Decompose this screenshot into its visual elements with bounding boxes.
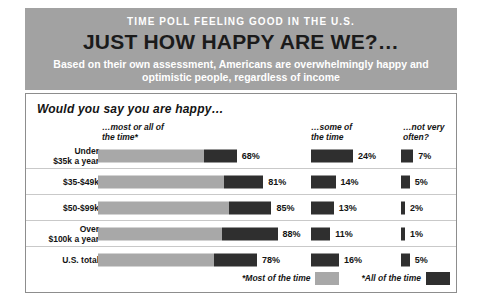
bar-value-label: 1% [410, 229, 423, 239]
bar-group-not-very-often: 5% [401, 253, 410, 266]
bar-segment [311, 175, 336, 188]
bar-value-label: 68% [242, 151, 260, 161]
bar-segment-most-of-the-time [98, 227, 222, 240]
bar-group-most-or-all: 88% [98, 227, 278, 240]
bar-value-label: 81% [268, 177, 286, 187]
bar-segment [311, 201, 334, 214]
legend-label-most: *Most of the time [242, 273, 310, 283]
bar-group-some-of-the-time: 13% [311, 201, 334, 214]
bar-segment [401, 201, 405, 214]
subheadline: Based on their own assessment, Americans… [25, 58, 457, 84]
row-label: $35-$49k [63, 177, 99, 187]
bar-segment [311, 149, 353, 162]
bar-value-label: 14% [341, 177, 359, 187]
bar-segment-all-of-the-time [214, 253, 257, 266]
bar-segment-most-of-the-time [98, 201, 229, 214]
bar-segment [401, 149, 413, 162]
row-label: $50-$99k [63, 203, 99, 213]
bar-group-some-of-the-time: 14% [311, 175, 336, 188]
column-header-not-very-often: …not very often? [403, 122, 445, 142]
bar-value-label: 78% [262, 255, 280, 265]
bar-segment [401, 227, 405, 240]
legend: *Most of the time *All of the time [26, 271, 450, 285]
bar-value-label: 16% [344, 255, 362, 265]
chart-row: $35-$49k81%14%5% [26, 168, 456, 194]
bar-group-most-or-all: 68% [98, 149, 237, 162]
chart-row: U.S. total78%16%5% [26, 246, 456, 272]
bar-value-label: 11% [335, 229, 353, 239]
row-label: Over $100k a year [48, 224, 99, 244]
bar-segment-all-of-the-time [229, 201, 272, 214]
headline: JUST HOW HAPPY ARE WE?… [25, 30, 457, 54]
infographic-root: TIME POLL FEELING GOOD IN THE U.S. JUST … [0, 0, 481, 305]
bar-value-label: 24% [358, 151, 376, 161]
bar-value-label: 13% [339, 203, 357, 213]
bar-group-most-or-all: 85% [98, 201, 271, 214]
column-header-most-or-all: …most or all of the time* [102, 122, 164, 142]
chart-row: Over $100k a year88%11%1% [26, 220, 456, 246]
chart-panel: Would you say you are happy… …most or al… [25, 93, 457, 293]
bar-group-some-of-the-time: 16% [311, 253, 339, 266]
bar-value-label: 85% [276, 203, 294, 213]
bar-value-label: 2% [410, 203, 423, 213]
chart-row: Under $35k a year68%24%7% [26, 143, 456, 168]
bar-segment-all-of-the-time [204, 149, 237, 162]
bar-group-most-or-all: 78% [98, 253, 257, 266]
bar-segment [311, 253, 339, 266]
legend-swatch-most [315, 272, 339, 285]
chart-rows: Under $35k a year68%24%7%$35-$49k81%14%5… [26, 143, 456, 272]
column-header-some-of-time: …some of the time [311, 122, 352, 142]
bar-segment-most-of-the-time [98, 149, 204, 162]
row-label: Under $35k a year [53, 146, 99, 166]
bar-group-some-of-the-time: 11% [311, 227, 330, 240]
legend-item-most: *Most of the time [242, 272, 339, 285]
bar-group-not-very-often: 1% [401, 227, 405, 240]
legend-label-all: *All of the time [361, 273, 421, 283]
bar-group-not-very-often: 7% [401, 149, 413, 162]
question-text: Would you say you are happy… [37, 102, 224, 116]
bar-group-not-very-often: 2% [401, 201, 405, 214]
bar-group-some-of-the-time: 24% [311, 149, 353, 162]
poll-kicker: TIME POLL FEELING GOOD IN THE U.S. [25, 16, 457, 28]
bar-segment [401, 175, 410, 188]
bar-segment-most-of-the-time [98, 253, 214, 266]
header-banner: TIME POLL FEELING GOOD IN THE U.S. JUST … [25, 8, 457, 90]
legend-item-all: *All of the time [361, 272, 450, 285]
legend-swatch-all [426, 272, 450, 285]
bar-value-label: 5% [415, 177, 428, 187]
bar-segment [311, 227, 330, 240]
bar-segment-all-of-the-time [222, 227, 277, 240]
row-label: U.S. total [62, 255, 99, 265]
bar-segment-all-of-the-time [224, 175, 263, 188]
bar-group-most-or-all: 81% [98, 175, 263, 188]
bar-value-label: 5% [415, 255, 428, 265]
bar-group-not-very-often: 5% [401, 175, 410, 188]
bar-segment-most-of-the-time [98, 175, 224, 188]
bar-value-label: 88% [283, 229, 301, 239]
chart-row: $50-$99k85%13%2% [26, 194, 456, 220]
bar-segment [401, 253, 410, 266]
bar-value-label: 7% [418, 151, 431, 161]
